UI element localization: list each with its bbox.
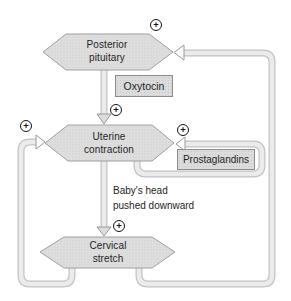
posterior-pituitary-label: Posterior pituitary (47, 38, 167, 64)
plus-icon: + (113, 220, 125, 232)
uterine-contraction-label: Uterine contraction (49, 130, 169, 156)
arrowhead-into-uterine-top (97, 114, 111, 124)
arrowhead-into-cervical-top (97, 227, 111, 236)
oxytocin-box: Oxytocin (115, 75, 173, 97)
oxytocin-box-label: Oxytocin (124, 80, 165, 92)
plus-icon: + (20, 120, 32, 132)
arrowhead-into-posterior-right-tip (174, 45, 184, 60)
plus-icon: + (177, 124, 189, 136)
babys-head-annotation-line2: pushed downward (113, 200, 194, 211)
plus-icon: + (110, 104, 122, 116)
posterior-pituitary-label-line1: Posterior (87, 39, 128, 50)
posterior-pituitary-label-line2: pituitary (89, 52, 125, 63)
cervical-stretch-label-line1: Cervical (90, 240, 127, 251)
babys-head-annotation-line1: Baby's head (113, 185, 168, 196)
uterine-contraction-label-line2: contraction (84, 144, 134, 155)
cervical-stretch-label: Cervical stretch (48, 239, 168, 265)
prostaglandins-box: Prostaglandins (177, 149, 255, 170)
plus-icon: + (150, 19, 162, 31)
feedback-loop-diagram: Posterior pituitary Uterine contraction … (0, 0, 291, 301)
babys-head-annotation: Baby's head pushed downward (113, 183, 194, 213)
cervical-stretch-label-line2: stretch (93, 253, 124, 264)
uterine-contraction-label-line1: Uterine (93, 131, 126, 142)
arrowhead-into-uterine-left-tip (36, 135, 45, 149)
prostaglandins-box-label: Prostaglandins (183, 154, 249, 165)
